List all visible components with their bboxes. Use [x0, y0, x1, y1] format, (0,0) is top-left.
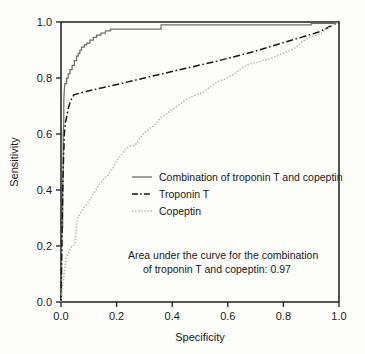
x-tick-label-4: 0.8 — [276, 310, 291, 322]
y-tick-label-0: 0.0 — [37, 296, 52, 308]
x-tick-label-2: 0.4 — [165, 310, 180, 322]
roc-chart-svg: 0.00.20.40.60.81.0 0.00.20.40.60.81.0 Sp… — [0, 0, 365, 354]
legend-label-combination: Combination of troponin T and copeptin — [159, 171, 343, 183]
x-tick-label-5: 1.0 — [331, 310, 346, 322]
y-tick-label-5: 1.0 — [37, 16, 52, 28]
legend-label-copeptin: Copeptin — [159, 205, 201, 217]
roc-curve-figure: 0.00.20.40.60.81.0 0.00.20.40.60.81.0 Sp… — [0, 0, 365, 354]
y-tick-label-4: 0.8 — [37, 72, 52, 84]
y-axis-title: Sensitivity — [8, 137, 20, 187]
auc-annotation-line2: of troponin T and copeptin: 0.97 — [143, 263, 291, 275]
y-tick-label-2: 0.4 — [37, 184, 52, 196]
x-tick-label-1: 0.2 — [109, 310, 124, 322]
auc-annotation-line1: Area under the curve for the combination — [128, 249, 318, 261]
x-axis-title: Specificity — [175, 331, 225, 343]
y-tick-label-1: 0.2 — [37, 240, 52, 252]
y-tick-label-3: 0.6 — [37, 128, 52, 140]
legend-label-troponin: Troponin T — [159, 188, 210, 200]
x-tick-label-3: 0.6 — [220, 310, 235, 322]
x-tick-label-0: 0.0 — [53, 310, 68, 322]
